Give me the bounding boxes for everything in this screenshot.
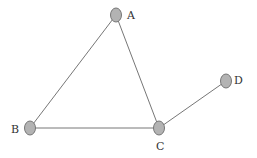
node-b: [25, 121, 36, 135]
edge-a-c: [116, 15, 159, 128]
label-c: C: [156, 140, 164, 153]
label-a: A: [126, 9, 136, 22]
edges: [30, 15, 226, 128]
label-d: D: [234, 74, 243, 87]
label-b: B: [11, 123, 19, 136]
nodes: [25, 8, 232, 135]
edge-a-b: [30, 15, 116, 128]
node-d: [221, 74, 232, 88]
labels: A B C D: [11, 9, 243, 153]
graph-diagram: A B C D: [0, 0, 257, 158]
node-c: [154, 121, 165, 135]
edge-c-d: [159, 81, 226, 128]
node-a: [111, 8, 122, 22]
